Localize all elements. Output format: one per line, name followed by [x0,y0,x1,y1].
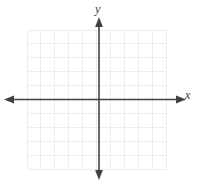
coordinate-plane-svg [0,0,200,184]
y-axis-arrow-up [95,17,103,27]
x-axis [4,96,186,104]
x-axis-arrow-left [4,96,14,104]
x-axis-label: x [185,89,190,101]
y-axis-label: y [95,3,100,15]
y-axis-arrow-down [95,170,103,180]
coordinate-plane-figure: y x [0,0,200,184]
